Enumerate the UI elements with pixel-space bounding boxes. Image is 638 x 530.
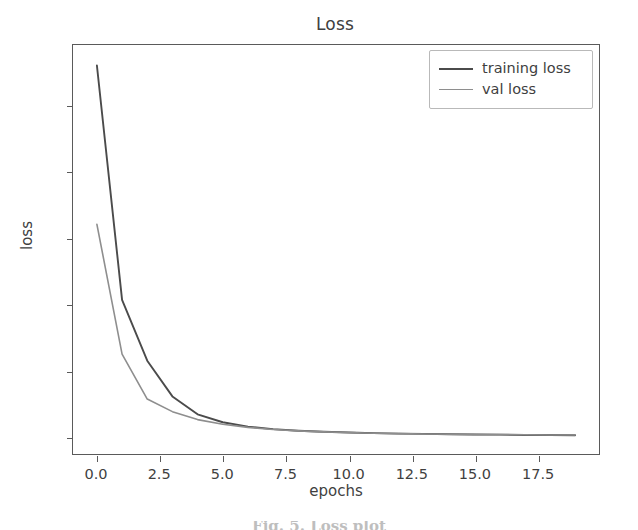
chart-title-text: Loss: [316, 14, 354, 34]
x-tick-label: 5.0: [211, 466, 234, 482]
y-tick-mark: [67, 106, 73, 107]
y-tick-mark: [67, 172, 73, 173]
legend-item-training-loss[interactable]: training loss: [439, 58, 583, 79]
x-tick-label: 0.0: [84, 466, 107, 482]
legend-item-val-loss[interactable]: val loss: [439, 79, 583, 100]
x-axis-label: epochs: [72, 482, 600, 500]
x-tick-label: 15.0: [459, 466, 491, 482]
x-tick-label: 17.5: [522, 466, 554, 482]
x-tick-mark: [97, 456, 98, 462]
x-tick-mark: [223, 456, 224, 462]
chart-legend: training loss val loss: [429, 50, 593, 109]
x-tick-mark: [413, 456, 414, 462]
series-line-val-loss: [97, 224, 575, 435]
legend-line-icon-val-loss: [439, 89, 473, 90]
x-tick-label: 2.5: [148, 466, 171, 482]
x-tick-label: 10.0: [332, 466, 364, 482]
legend-label-val-loss: val loss: [482, 82, 536, 97]
y-tick-mark: [67, 239, 73, 240]
legend-label-training-loss: training loss: [482, 61, 571, 76]
x-tick-label: 7.5: [274, 466, 297, 482]
x-tick-mark: [160, 456, 161, 462]
figure-canvas: Loss loss epochs 0.00.51.01.52.02.5 0.02…: [0, 0, 638, 530]
caption-text: Fig. 5. Loss plot: [0, 521, 638, 530]
legend-line-icon-training-loss: [439, 68, 473, 70]
x-tick-mark: [286, 456, 287, 462]
y-axis-label: loss: [18, 221, 36, 250]
x-tick-mark: [476, 456, 477, 462]
x-tick-label: 12.5: [396, 466, 428, 482]
x-tick-mark: [539, 456, 540, 462]
chart-title: Loss: [0, 14, 638, 34]
y-tick-mark: [67, 372, 73, 373]
series-line-training-loss: [97, 66, 575, 436]
page-caption-clipped: Fig. 5. Loss plot: [0, 521, 638, 530]
x-tick-mark: [350, 456, 351, 462]
y-tick-mark: [67, 305, 73, 306]
y-tick-mark: [67, 438, 73, 439]
